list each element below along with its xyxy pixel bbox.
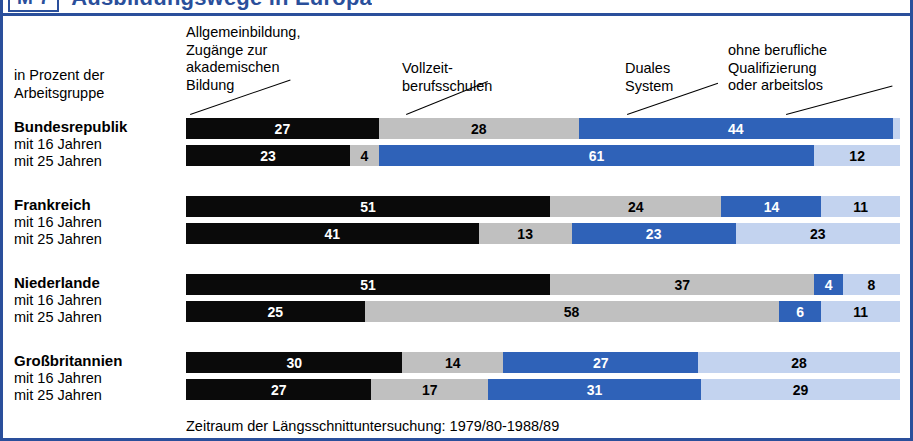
bar-segment: 30	[186, 352, 402, 373]
bar-rows: 27284412346112	[186, 118, 900, 166]
group-row-sublabel: mit 25 Jahren	[14, 231, 179, 249]
bar-segment-value: 8	[868, 277, 876, 293]
bar-rows: 5124141141132323	[186, 196, 900, 244]
bar-segment-value: 51	[360, 277, 376, 293]
bar-segment: 31	[488, 379, 701, 400]
bar-row: 30142728	[186, 352, 900, 373]
group-name: Frankreich	[14, 196, 179, 214]
bar-segment: 6	[779, 301, 822, 322]
bar-segment-value: 28	[471, 121, 487, 137]
bar-segment: 27	[186, 118, 379, 139]
group-row-sublabel: mit 25 Jahren	[14, 309, 179, 327]
bar-segment-value: 37	[674, 277, 690, 293]
group-row-sublabel: mit 25 Jahren	[14, 387, 179, 405]
bar-segment: 8	[843, 274, 900, 295]
bar-segment: 12	[814, 145, 900, 166]
bar-rows: 3014272827173129	[186, 352, 900, 400]
bar-row: 2346112	[186, 145, 900, 166]
bar-segment: 27	[186, 379, 371, 400]
group-label: Großbritannienmit 16 Jahrenmit 25 Jahren	[14, 352, 179, 405]
bar-segment-value: 27	[275, 121, 291, 137]
bar-segment: 58	[365, 301, 779, 322]
bar-segment: 24	[550, 196, 721, 217]
bar-segment-value: 29	[793, 382, 809, 398]
bar-segment-value: 31	[587, 382, 603, 398]
bar-segment-value: 27	[271, 382, 287, 398]
group-row-sublabel: mit 16 Jahren	[14, 214, 179, 232]
group-row-sublabel: mit 16 Jahren	[14, 136, 179, 154]
bar-segment: 37	[550, 274, 814, 295]
bar-segment-value: 6	[796, 304, 804, 320]
bar-segment-value: 51	[360, 199, 376, 215]
bar-segment-value: 27	[593, 355, 609, 371]
bar-rows: 5137482558611	[186, 274, 900, 322]
legend-header-allgemeinbildung: Allgemeinbildung, Zugänge zur akademisch…	[186, 24, 300, 94]
group-label: Frankreichmit 16 Jahrenmit 25 Jahren	[14, 196, 179, 249]
bar-segment: 29	[701, 379, 900, 400]
legend-header-vollzeitberufsschulen: Vollzeit- berufsschulen	[402, 60, 492, 95]
bar-segment: 23	[736, 223, 900, 244]
bar-segment-value: 14	[445, 355, 461, 371]
bar-segment-value: 30	[286, 355, 302, 371]
group-name: Bundesrepublik	[14, 118, 179, 136]
bar-segment-value: 12	[849, 148, 865, 164]
legend-header-ohne-qualifizierung: ohne berufliche Qualifizierung oder arbe…	[728, 42, 827, 95]
bar-segment: 51	[186, 196, 550, 217]
bar-segment: 11	[821, 196, 900, 217]
bar-segment: 27	[503, 352, 698, 373]
bar-segment: 51	[186, 274, 550, 295]
title-tag: M 7	[8, 0, 59, 12]
bar-row: 27173129	[186, 379, 900, 400]
bar-segment: 14	[402, 352, 503, 373]
bar-segment: 23	[572, 223, 736, 244]
bar-segment-value: 41	[325, 226, 341, 242]
bar-segment-value: 13	[517, 226, 533, 242]
bar-segment-value: 23	[260, 148, 276, 164]
bar-segment: 25	[186, 301, 365, 322]
bar-segment-value: 4	[361, 148, 369, 164]
bar-segment-value: 17	[422, 382, 438, 398]
bar-segment: 23	[186, 145, 350, 166]
group-name: Niederlande	[14, 274, 179, 292]
group-label: Niederlandemit 16 Jahrenmit 25 Jahren	[14, 274, 179, 327]
page-title: Ausbildungswege in Europa	[71, 0, 372, 11]
bar-segment: 17	[371, 379, 488, 400]
group-row-sublabel: mit 16 Jahren	[14, 370, 179, 388]
bar-segment: 14	[721, 196, 821, 217]
group-row-sublabel: mit 16 Jahren	[14, 292, 179, 310]
bar-row: 41132323	[186, 223, 900, 244]
group-row-sublabel: mit 25 Jahren	[14, 153, 179, 171]
bar-segment-value: 23	[810, 226, 826, 242]
bar-segment: 1	[893, 118, 900, 139]
bar-segment: 61	[379, 145, 815, 166]
chart-footnote: Zeitraum der Längsschnittuntersuchung: 1…	[186, 418, 559, 434]
bar-segment-value: 25	[267, 304, 283, 320]
bar-segment-value: 44	[728, 121, 744, 137]
bar-segment: 13	[479, 223, 572, 244]
bar-segment: 11	[821, 301, 900, 322]
bar-segment-value: 11	[853, 199, 868, 215]
frame-left-rule	[0, 0, 3, 441]
bar-segment-value: 4	[825, 277, 833, 293]
bar-segment-value: 58	[564, 304, 580, 320]
title-underline-rule	[3, 13, 910, 16]
bar-segment-value: 14	[764, 199, 780, 215]
bar-row: 51241411	[186, 196, 900, 217]
axis-note: in Prozent der Arbeitsgruppe	[14, 66, 104, 102]
bar-segment: 4	[350, 145, 379, 166]
bar-segment-value: 28	[791, 355, 807, 371]
bar-row: 2558611	[186, 301, 900, 322]
group-name: Großbritannien	[14, 352, 179, 370]
group-label: Bundesrepublikmit 16 Jahrenmit 25 Jahren	[14, 118, 179, 171]
bar-segment: 28	[379, 118, 579, 139]
bar-segment-value: 11	[853, 304, 868, 320]
bar-segment-value: 23	[646, 226, 662, 242]
legend-header-duales-system: Duales System	[625, 60, 673, 95]
bar-segment: 41	[186, 223, 479, 244]
bar-row: 2728441	[186, 118, 900, 139]
bar-segment: 4	[814, 274, 843, 295]
chart-title-bar: M 7 Ausbildungswege in Europa	[8, 0, 372, 13]
bar-segment-value: 61	[589, 148, 605, 164]
bar-segment: 44	[579, 118, 893, 139]
bar-row: 513748	[186, 274, 900, 295]
